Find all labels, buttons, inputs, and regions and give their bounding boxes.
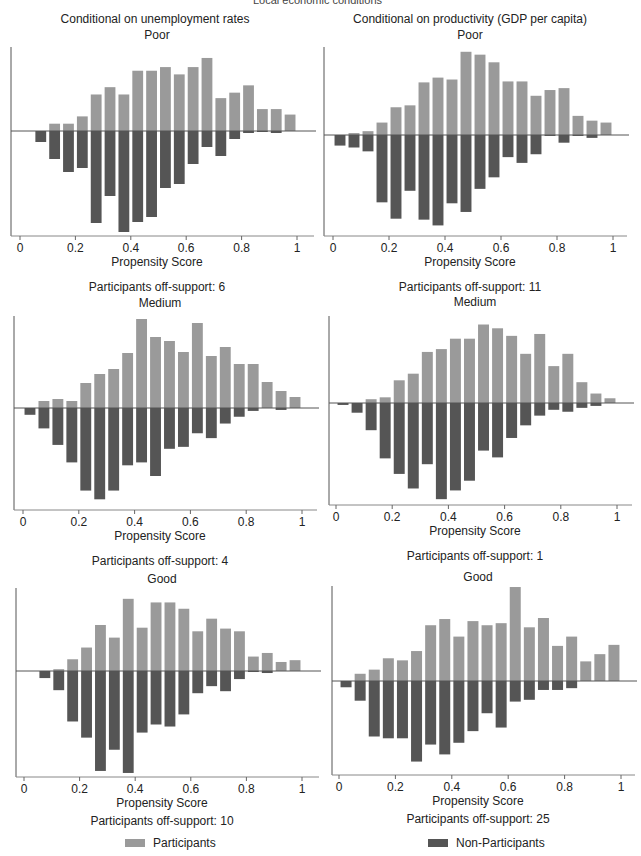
participants-bar [81, 648, 92, 671]
x-tick-label: 0.6 [500, 780, 517, 794]
participants-swatch-icon [125, 839, 145, 847]
participants-bar [122, 353, 133, 408]
x-tick-label: 0.2 [381, 241, 398, 255]
participants-bar [447, 80, 458, 135]
non-participants-bar [576, 403, 587, 408]
participants-bar [436, 349, 447, 403]
panel-row-title: Good [7, 572, 317, 586]
participants-bar [580, 661, 591, 681]
participants-bar [290, 397, 301, 408]
legend-label-participants: Participants [153, 836, 216, 850]
participants-bar [271, 109, 282, 131]
histogram-panel-4: 00.20.40.60.81 [328, 316, 638, 527]
non-participants-bar [492, 403, 503, 457]
non-participants-bar [80, 408, 91, 491]
participants-bar [206, 619, 217, 671]
x-tick-label: 0.4 [437, 241, 454, 255]
participants-bar [587, 121, 598, 135]
non-participants-bar [35, 131, 46, 142]
participants-bar [160, 67, 171, 131]
participants-bar [369, 670, 380, 681]
participants-bar [80, 383, 91, 408]
participants-bar [394, 380, 405, 403]
participants-bar [150, 337, 161, 408]
non-participants-bar [123, 671, 134, 773]
non-participants-bar [49, 131, 60, 159]
x-tick-label: 0.4 [443, 780, 460, 794]
participants-bar [573, 116, 584, 135]
histogram-panel-5: 00.20.40.60.81 [15, 588, 325, 799]
non-participants-bar [94, 408, 105, 499]
non-participants-bar [489, 135, 500, 177]
participants-bar [118, 94, 129, 131]
x-tick-label: 0.6 [496, 510, 513, 524]
x-tick-label: 1 [299, 782, 306, 796]
participants-bar [510, 587, 521, 681]
non-participants-bar [81, 671, 92, 738]
participants-bar [229, 93, 240, 131]
non-participants-bar [422, 403, 433, 464]
participants-bar [559, 88, 570, 135]
participants-bar [192, 323, 203, 408]
participants-bar [220, 629, 231, 671]
non-participants-bar [192, 408, 203, 433]
participants-bar [397, 660, 408, 681]
non-participants-bar [192, 671, 203, 693]
participants-bar [123, 599, 134, 671]
x-axis-label: Propensity Score [5, 529, 315, 543]
non-participants-bar [408, 403, 419, 488]
non-participants-bar [450, 403, 461, 490]
non-participants-bar [132, 131, 143, 222]
participants-bar [419, 82, 430, 135]
off-support-note: Participants off-support: 4 [5, 554, 315, 568]
non-participants-bar [95, 671, 106, 771]
participants-bar [52, 399, 63, 408]
non-participants-bar [496, 681, 507, 728]
participants-bar [262, 653, 273, 671]
participants-bar [248, 657, 259, 671]
participants-bar [136, 319, 147, 408]
non-participants-bar [559, 135, 570, 143]
participants-bar [380, 397, 391, 403]
participants-bar [146, 71, 157, 131]
x-tick-label: 0 [17, 241, 24, 255]
participants-bar [506, 336, 517, 403]
non-participants-swatch-icon [428, 839, 448, 847]
panel-row-title: Good [323, 570, 633, 584]
participants-bar [91, 94, 102, 131]
non-participants-bar [383, 681, 394, 738]
participants-bar [467, 621, 478, 681]
non-participants-bar [341, 681, 352, 687]
participants-bar [482, 625, 493, 681]
non-participants-bar [355, 681, 366, 701]
non-participants-bar [510, 681, 521, 702]
non-participants-bar [524, 681, 535, 700]
non-participants-bar [562, 403, 573, 412]
participants-bar [108, 369, 119, 408]
non-participants-bar [38, 408, 49, 428]
participants-bar [109, 638, 120, 671]
non-participants-bar [234, 671, 245, 679]
non-participants-bar [122, 408, 133, 465]
x-tick-label: 0.4 [122, 241, 139, 255]
participants-bar [243, 85, 254, 131]
non-participants-bar [425, 681, 436, 745]
panel-row-title: Medium [5, 296, 315, 310]
non-participants-bar [174, 131, 185, 184]
x-tick-label: 1 [618, 780, 625, 794]
x-tick-label: 0.8 [549, 241, 566, 255]
participants-bar [38, 401, 49, 408]
non-participants-bar [229, 131, 240, 139]
legend-participants: Participants [125, 836, 216, 850]
non-participants-bar [146, 131, 157, 217]
participants-bar [405, 105, 416, 135]
non-participants-bar [394, 403, 405, 474]
participants-bar [248, 364, 259, 408]
participants-bar [94, 374, 105, 408]
x-tick-label: 0.2 [384, 510, 401, 524]
non-participants-bar [552, 681, 563, 690]
participants-bar [220, 347, 231, 408]
non-participants-bar [188, 131, 199, 164]
participants-bar [594, 654, 605, 681]
non-participants-bar [538, 681, 549, 690]
